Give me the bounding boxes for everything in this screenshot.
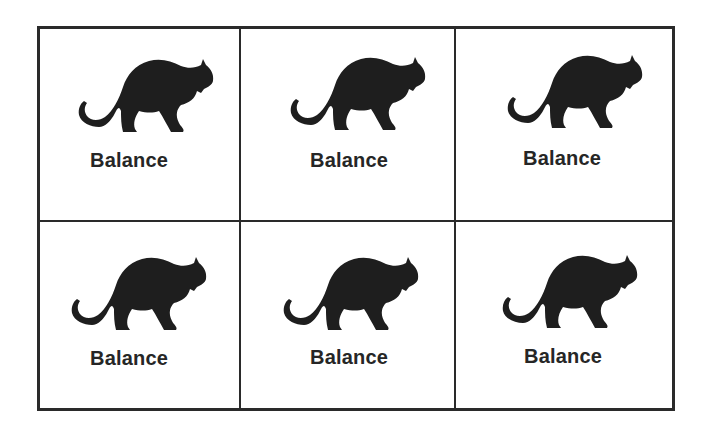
panther-icon xyxy=(77,57,215,133)
card-label: Balance xyxy=(310,346,388,369)
card-1: Balance xyxy=(40,29,241,222)
card-3: Balance xyxy=(456,29,672,222)
card-label: Balance xyxy=(90,347,168,370)
card-label: Balance xyxy=(310,149,388,172)
card-5: Balance xyxy=(241,222,456,408)
card-label: Balance xyxy=(523,147,601,170)
panther-icon xyxy=(282,255,420,331)
panther-icon xyxy=(70,255,208,331)
panther-icon xyxy=(506,53,644,129)
panther-icon xyxy=(501,253,639,329)
panther-icon xyxy=(289,55,427,131)
card-4: Balance xyxy=(40,222,241,408)
card-label: Balance xyxy=(524,345,602,368)
card-2: Balance xyxy=(241,29,456,222)
card-6: Balance xyxy=(456,222,672,408)
card-grid: Balance Balance Balance Balance Balance … xyxy=(37,26,675,411)
card-label: Balance xyxy=(90,149,168,172)
